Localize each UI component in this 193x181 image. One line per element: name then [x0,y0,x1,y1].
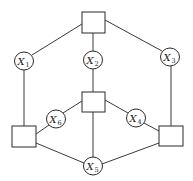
edge-center-x6 [63,101,82,113]
variable-letter: X [86,55,95,66]
factor-node-left [12,126,36,147]
variable-letter: X [86,161,95,172]
edge-center-x4 [105,100,128,113]
edge-left-x5 [36,143,84,163]
edge-top-x3 [105,20,162,51]
edge-x4-right [144,123,159,131]
variable-node-x2: X 2 [84,51,103,69]
variable-subscript: 6 [58,119,62,127]
variable-node-x6: X 6 [47,110,66,128]
variable-node-x3: X 3 [161,48,180,66]
variable-letter: X [17,56,26,67]
factor-node-right [159,126,183,146]
variable-subscript: 2 [95,60,99,68]
variable-letter: X [49,114,58,125]
edge-top-x1 [32,24,82,55]
factor-node-center [82,92,105,112]
variable-subscript: 1 [26,61,30,69]
factor-node-top [82,12,105,33]
variable-node-x1: X 1 [15,52,34,70]
edge-right-x5 [102,143,159,164]
variable-subscript: 4 [138,118,142,126]
variable-letter: X [129,113,138,124]
edge-x6-left [36,125,49,134]
variable-node-x4: X 4 [127,109,146,127]
variable-subscript: 3 [172,57,176,65]
factor-nodes [12,12,183,147]
variable-node-x5: X 5 [84,157,103,175]
factor-graph: X 1 X 2 X 3 X 4 X 5 X 6 [0,0,193,181]
variable-letter: X [163,52,172,63]
variable-subscript: 5 [95,166,99,174]
